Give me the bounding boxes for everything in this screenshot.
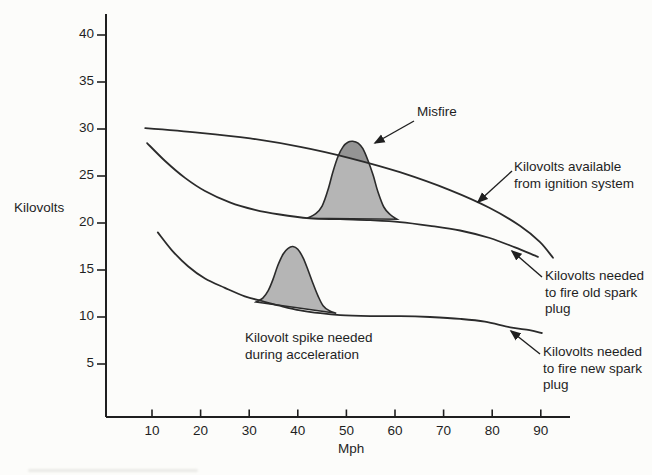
spark-plug-voltage-chart: Kilovolts Mph Misfire Kilovolts availabl…	[0, 0, 652, 475]
annotation-old-spark-plug: Kilovolts needed to fire old spark plug	[545, 268, 644, 318]
misfire-arrow	[375, 121, 414, 143]
y-tick-label: 35	[56, 73, 94, 88]
x-tick-label: 70	[429, 423, 459, 438]
x-tick-label: 40	[283, 423, 313, 438]
y-tick-label: 25	[56, 167, 94, 182]
x-tick-label: 60	[380, 423, 410, 438]
annotation-kilovolts-available: Kilovolts available from ignition system	[514, 159, 634, 192]
y-tick-label: 30	[56, 120, 94, 135]
y-tick-label: 40	[56, 26, 94, 41]
new-plug-arrow	[511, 331, 540, 354]
y-tick-label: 20	[56, 214, 94, 229]
curve-new-spark-plug	[158, 232, 542, 333]
y-tick-label: 15	[56, 261, 94, 276]
x-axis-title: Mph	[338, 441, 364, 458]
cropped-caption-smudge	[28, 469, 198, 472]
available-arrow	[478, 171, 512, 202]
x-tick-label: 30	[234, 423, 264, 438]
x-tick-label: 90	[526, 423, 556, 438]
x-tick-label: 10	[137, 423, 167, 438]
y-tick-label: 10	[56, 308, 94, 323]
chart-canvas	[0, 0, 652, 475]
y-tick-label: 5	[56, 355, 94, 370]
x-tick-label: 50	[331, 423, 361, 438]
old-plug-arrow	[512, 251, 542, 277]
annotation-misfire: Misfire	[417, 104, 457, 121]
x-tick-label: 20	[186, 423, 216, 438]
annotation-new-spark-plug: Kilovolts needed to fire new spark plug	[543, 344, 642, 394]
x-tick-label: 80	[477, 423, 507, 438]
annotation-acceleration-spike: Kilovolt spike needed during acceleratio…	[245, 330, 373, 363]
